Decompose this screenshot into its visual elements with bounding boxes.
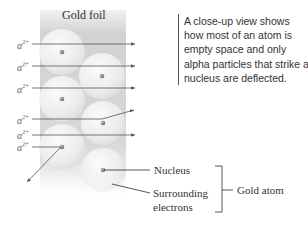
label-electrons: electrons — [153, 201, 193, 214]
nucleus-icon — [60, 50, 65, 55]
alpha-label-6: α2+ — [17, 139, 29, 153]
alpha-label-3: α2+ — [17, 81, 29, 95]
alpha-label-2: α2+ — [17, 59, 29, 73]
label-surrounding: Surrounding — [153, 187, 208, 200]
gold-foil-diagram: Gold foil α2+ α2+ α2+ α2+ α2+ α2+ A clos… — [0, 0, 308, 238]
label-gold-atom: Gold atom — [237, 184, 284, 197]
alpha-label-1: α2+ — [17, 37, 29, 51]
foil-title: Gold foil — [62, 8, 106, 23]
nucleus-icon — [60, 97, 65, 102]
label-nucleus: Nucleus — [154, 164, 190, 177]
nucleus-icon — [101, 121, 106, 126]
nucleus-icon — [100, 74, 105, 79]
caption-text: A close-up view shows how most of an ato… — [178, 14, 308, 85]
alpha-label-4: α2+ — [17, 112, 29, 126]
bracket — [215, 166, 222, 212]
